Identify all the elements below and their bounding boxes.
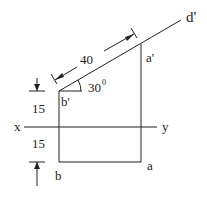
angle-arc [78,80,81,91]
label-a-prime: a' [146,50,154,65]
dim-below-xy-15: 15 [32,136,45,151]
dim-angle-30: 30 [88,80,101,95]
dim-length-40: 40 [80,52,93,67]
label-d-prime: d' [186,9,197,25]
arrow-up-icon [34,162,40,169]
label-y: y [162,119,169,134]
dim-40-tick-end [131,28,137,38]
projection-diagram: d' a' b' a b x y 40 30 0 15 15 [0,0,207,198]
label-b: b [55,168,62,183]
arrow-right-icon [125,34,134,41]
dim-angle-degree: 0 [102,78,106,87]
arrow-down-icon [34,84,40,91]
label-x: x [14,119,21,134]
arrow-left-icon [55,73,64,80]
label-a: a [147,158,153,173]
true-length-line [59,20,181,91]
dim-above-xy-15: 15 [32,101,45,116]
label-b-prime: b' [61,94,70,109]
